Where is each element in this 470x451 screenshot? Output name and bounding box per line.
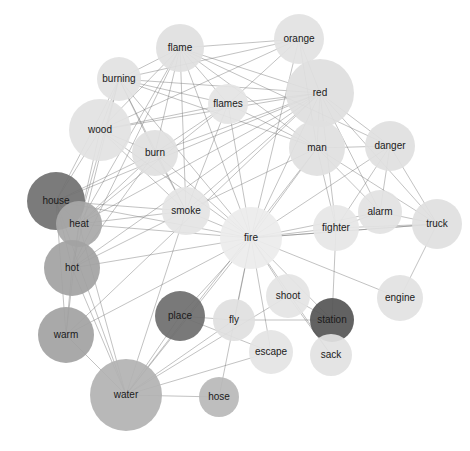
graph-node[interactable]	[220, 207, 282, 269]
graph-node[interactable]	[358, 190, 402, 234]
graph-node[interactable]	[38, 307, 94, 363]
graph-node[interactable]	[69, 99, 131, 161]
figure-caption	[0, 440, 470, 451]
graph-node[interactable]	[199, 377, 239, 417]
graph-node[interactable]	[155, 291, 205, 341]
graph-node[interactable]	[289, 120, 345, 176]
graph-node[interactable]	[132, 130, 178, 176]
network-canvas: flameorangeburningredflameswoodburnmanda…	[0, 0, 470, 451]
graph-node[interactable]	[310, 334, 352, 376]
graph-node[interactable]	[213, 299, 255, 341]
graph-node[interactable]	[97, 57, 141, 101]
graph-node[interactable]	[412, 199, 462, 249]
graph-node[interactable]	[44, 240, 100, 296]
graph-node[interactable]	[249, 330, 293, 374]
graph-node[interactable]	[274, 14, 324, 64]
graph-node[interactable]	[266, 274, 310, 318]
graph-node[interactable]	[90, 359, 162, 431]
graph-edge	[180, 48, 186, 211]
graph-node[interactable]	[162, 187, 210, 235]
graph-node[interactable]	[365, 121, 415, 171]
graph-node[interactable]	[377, 275, 423, 321]
graph-node[interactable]	[313, 205, 359, 251]
nodes-layer	[27, 14, 462, 431]
graph-edge	[119, 39, 299, 79]
network-graph-figure: flameorangeburningredflameswoodburnmanda…	[0, 0, 470, 451]
graph-node[interactable]	[208, 84, 248, 124]
graph-node[interactable]	[56, 201, 102, 247]
graph-node[interactable]	[286, 59, 354, 127]
graph-node[interactable]	[156, 24, 204, 72]
